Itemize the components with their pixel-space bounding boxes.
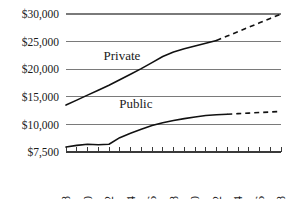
series-line-public-solid [66,114,227,147]
xtick-label-1994: 1994 [125,196,137,199]
xtick-label-2008: 2008 [275,196,287,199]
x-axis-tick-labels: 1988199019921994199619982000200220042006… [60,196,287,199]
x-axis-tickmarks [66,147,281,152]
xtick-label-2002: 2002 [211,196,223,199]
tuition-line-chart: $30,000$25,000$20,000$15,000$10,000$7,50… [0,0,288,199]
xtick-label-1988: 1988 [60,196,72,199]
xtick-label-1992: 1992 [103,196,115,199]
xtick-label-1998: 1998 [168,196,180,199]
ytick-label-20000: $20,000 [22,63,60,76]
series-line-private-projected [217,14,282,41]
ytick-label-25000: $25,000 [22,36,60,49]
xtick-label-2004: 2004 [232,196,244,199]
y-axis-tick-labels: $30,000$25,000$20,000$15,000$10,000$7,50… [22,8,60,159]
ytick-label-7500: $7,500 [27,146,59,159]
xtick-label-1990: 1990 [82,196,94,199]
ytick-label-15000: $15,000 [22,91,60,104]
data-series-group [66,14,281,147]
series-line-public-projected [227,111,281,114]
chart-canvas: $30,000$25,000$20,000$15,000$10,000$7,50… [0,0,288,199]
xtick-label-2000: 2000 [189,196,201,199]
series-annotations-group: PrivatePublic [103,48,152,111]
gridlines-group [66,14,281,124]
xtick-label-2006: 2006 [254,196,266,199]
ytick-label-30000: $30,000 [22,8,60,21]
public-series-label: Public [119,96,152,111]
ytick-label-10000: $10,000 [22,119,60,132]
xtick-label-1996: 1996 [146,196,158,199]
private-series-label: Private [103,48,140,63]
